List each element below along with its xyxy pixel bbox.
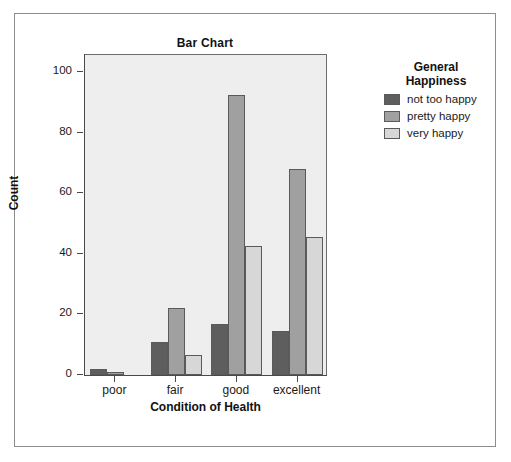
legend-swatch-icon <box>384 94 400 105</box>
legend-title: General Happiness <box>384 60 488 88</box>
bar <box>272 331 289 375</box>
legend-item-label: not too happy <box>407 93 477 105</box>
bar <box>211 324 228 376</box>
bar <box>228 95 245 375</box>
bar <box>151 342 168 375</box>
legend-swatch-icon <box>384 111 400 122</box>
y-axis-tick-label: 100 <box>28 64 72 76</box>
y-axis-tick-label: 40 <box>28 246 72 258</box>
chart-title: Bar Chart <box>80 36 330 50</box>
y-axis-tick-mark <box>77 253 83 254</box>
y-axis-tick-label: 0 <box>28 367 72 379</box>
y-axis-tick-label: 60 <box>28 185 72 197</box>
legend-swatch-icon <box>384 128 400 139</box>
plot-area <box>84 54 327 376</box>
y-axis-tick-mark <box>77 313 83 314</box>
plot-bars-container <box>85 55 326 375</box>
bar <box>168 308 185 375</box>
y-axis-tick-mark <box>77 192 83 193</box>
x-axis-tick-mark <box>114 376 115 382</box>
legend-item-label: pretty happy <box>407 110 470 122</box>
legend-item-label: very happy <box>407 127 463 139</box>
legend-entries: not too happypretty happyvery happy <box>384 93 502 139</box>
x-axis-tick-label: excellent <box>252 383 342 397</box>
x-axis-line <box>84 375 327 376</box>
legend-title-line-2: Happiness <box>384 74 488 88</box>
bar <box>245 246 262 375</box>
legend-item: very happy <box>384 127 502 139</box>
y-axis-tick-mark <box>77 374 83 375</box>
legend: General Happiness not too happypretty ha… <box>384 60 502 139</box>
bar <box>185 355 202 375</box>
y-axis-tick-mark <box>77 71 83 72</box>
y-axis-line <box>84 54 85 376</box>
y-axis-title: Count <box>7 133 21 253</box>
legend-item: pretty happy <box>384 110 502 122</box>
x-axis-tick-mark <box>175 376 176 382</box>
screenshot-page: Bar Chart 020406080100 Count poorfairgoo… <box>0 0 511 462</box>
y-axis-tick-label: 80 <box>28 125 72 137</box>
y-axis-tick-label: 20 <box>28 306 72 318</box>
legend-item: not too happy <box>384 93 502 105</box>
legend-title-line-1: General <box>384 60 488 74</box>
bar <box>289 169 306 375</box>
x-axis-tick-mark <box>297 376 298 382</box>
x-axis-title: Condition of Health <box>84 400 327 414</box>
y-axis-tick-mark <box>77 132 83 133</box>
bar <box>306 237 323 375</box>
x-axis-tick-mark <box>236 376 237 382</box>
